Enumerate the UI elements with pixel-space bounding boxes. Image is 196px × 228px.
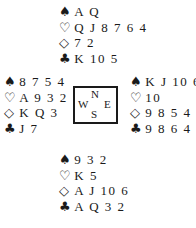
south-hand: ♠ 9 3 2 ♡ K 5 ◇ A J 10 6 ♣ A Q 3 2: [59, 152, 129, 214]
north-spades: A Q: [74, 4, 100, 19]
north-hand: ♠ A Q ♡ Q J 8 7 6 4 ◇ 7 2 ♣ K 10 5: [59, 4, 147, 66]
east-hand: ♠ K J 10 6 ♡ 10 ◇ 9 8 5 4 ♣ 9 8 6 4: [130, 74, 196, 136]
spade-icon: ♠: [59, 152, 71, 168]
south-clubs-row: ♣ A Q 3 2: [59, 199, 129, 215]
heart-icon: ♡: [59, 20, 71, 36]
east-hearts: 10: [145, 90, 161, 105]
diamond-icon: ◇: [59, 35, 71, 51]
diamond-icon: ◇: [130, 105, 142, 121]
west-clubs: J 7: [19, 121, 38, 136]
west-hand: ♠ 8 7 5 4 ♡ A 9 3 2 ◇ K Q 3 ♣ J 7: [4, 74, 68, 136]
club-icon: ♣: [59, 199, 71, 215]
heart-icon: ♡: [4, 90, 16, 106]
club-icon: ♣: [59, 51, 71, 67]
heart-icon: ♡: [59, 168, 71, 184]
diamond-icon: ◇: [59, 183, 71, 199]
heart-icon: ♡: [130, 90, 142, 106]
east-clubs-row: ♣ 9 8 6 4: [130, 121, 196, 137]
east-spades-row: ♠ K J 10 6: [130, 74, 196, 90]
north-diamonds-row: ◇ 7 2: [59, 35, 147, 51]
west-spades: 8 7 5 4: [19, 74, 65, 89]
north-spades-row: ♠ A Q: [59, 4, 147, 20]
south-hearts: K 5: [74, 168, 98, 183]
north-hearts-row: ♡ Q J 8 7 6 4: [59, 20, 147, 36]
south-hearts-row: ♡ K 5: [59, 168, 129, 184]
west-diamonds: K Q 3: [19, 105, 58, 120]
west-hearts: A 9 3 2: [19, 90, 67, 105]
club-icon: ♣: [4, 121, 16, 137]
spade-icon: ♠: [4, 74, 16, 90]
north-clubs: K 10 5: [74, 51, 118, 66]
east-hearts-row: ♡ 10: [130, 90, 196, 106]
south-clubs: A Q 3 2: [74, 199, 125, 214]
west-clubs-row: ♣ J 7: [4, 121, 68, 137]
north-clubs-row: ♣ K 10 5: [59, 51, 147, 67]
east-diamonds: 9 8 5 4: [145, 105, 191, 120]
west-diamonds-row: ◇ K Q 3: [4, 105, 68, 121]
south-diamonds-row: ◇ A J 10 6: [59, 183, 129, 199]
north-diamonds: 7 2: [74, 35, 95, 50]
west-spades-row: ♠ 8 7 5 4: [4, 74, 68, 90]
south-spades: 9 3 2: [74, 152, 108, 167]
west-hearts-row: ♡ A 9 3 2: [4, 90, 68, 106]
compass-box: N W E S: [73, 86, 118, 124]
spade-icon: ♠: [59, 4, 71, 20]
east-diamonds-row: ◇ 9 8 5 4: [130, 105, 196, 121]
spade-icon: ♠: [130, 74, 142, 90]
east-clubs: 9 8 6 4: [145, 121, 191, 136]
compass-north-label: N: [91, 89, 99, 100]
club-icon: ♣: [130, 121, 142, 137]
north-hearts: Q J 8 7 6 4: [74, 20, 147, 35]
east-spades: K J 10 6: [145, 74, 196, 89]
compass-west-label: W: [78, 99, 88, 110]
south-diamonds: A J 10 6: [74, 183, 129, 198]
compass-east-label: E: [104, 99, 111, 110]
compass-south-label: S: [91, 109, 97, 120]
diamond-icon: ◇: [4, 105, 16, 121]
south-spades-row: ♠ 9 3 2: [59, 152, 129, 168]
